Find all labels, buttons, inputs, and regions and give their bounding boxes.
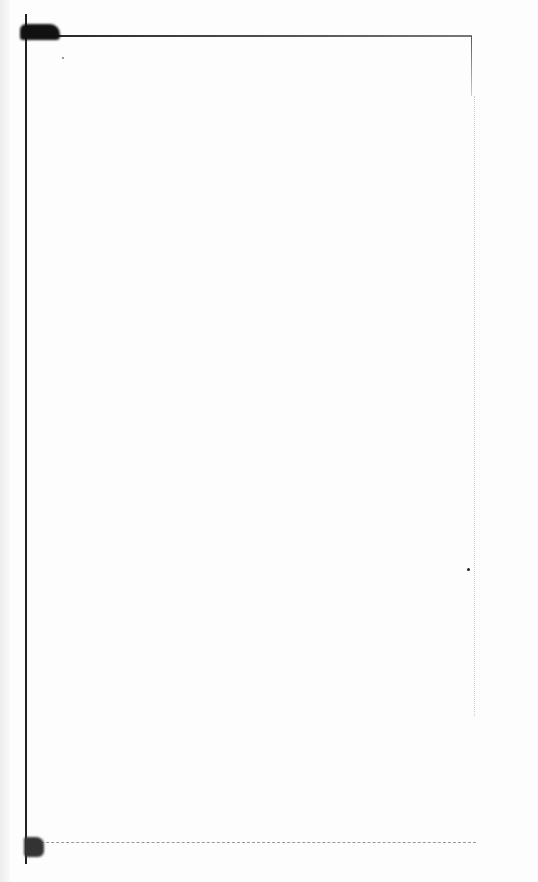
ink-speck [62,57,64,59]
page-edge-shadow [0,0,10,882]
frame-left-line [25,14,27,864]
ink-blot-top [20,24,60,40]
frame-right-corner [471,36,472,96]
frame-bottom-line [26,842,476,844]
ink-speck [467,568,470,571]
ink-blot-bottom [24,837,44,857]
frame-right-line [474,96,476,716]
frame-top-line [26,35,472,37]
